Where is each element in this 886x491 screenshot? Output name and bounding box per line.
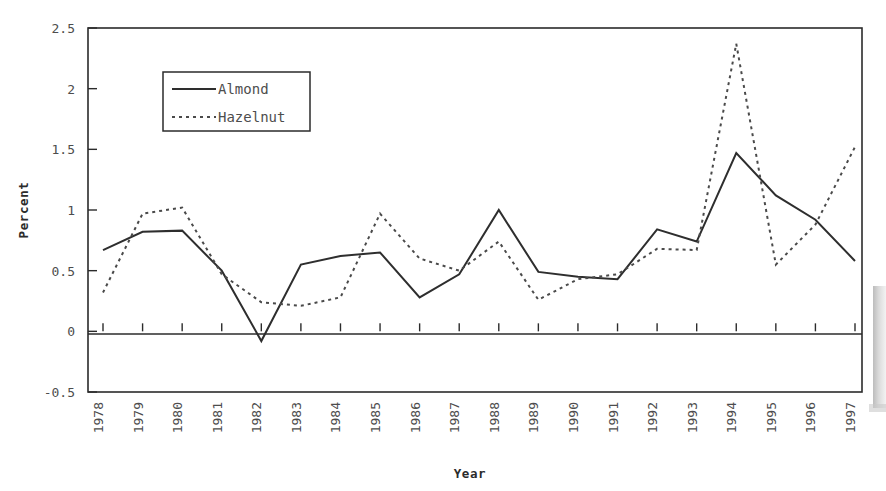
chart-figure: -0.500.511.522.5 19781979198019811982198… bbox=[0, 0, 886, 491]
x-tick-label: 1991 bbox=[606, 402, 621, 433]
legend-label-almond: Almond bbox=[218, 81, 269, 97]
x-tick-label: 1990 bbox=[566, 402, 581, 433]
x-tick-label: 1986 bbox=[408, 402, 423, 433]
x-axis-tick-labels: 1978197919801981198219831984198519861987… bbox=[91, 402, 858, 433]
y-tick-label: 1.5 bbox=[52, 142, 75, 157]
chart-legend: Almond Hazelnut bbox=[163, 72, 310, 131]
x-tick-label: 1978 bbox=[91, 402, 106, 433]
page-edge-shadow bbox=[873, 286, 886, 408]
y-tick-label: 2 bbox=[67, 82, 75, 97]
y-axis-tick-labels: -0.500.511.522.5 bbox=[44, 21, 75, 400]
y-tick-label: 1 bbox=[67, 203, 75, 218]
x-tick-label: 1996 bbox=[803, 402, 818, 433]
x-tick-label: 1984 bbox=[328, 402, 343, 433]
x-tick-label: 1994 bbox=[724, 402, 739, 433]
y-tick-label: 0.5 bbox=[52, 264, 75, 279]
y-axis-title: Percent bbox=[16, 182, 31, 239]
x-tick-label: 1989 bbox=[526, 402, 541, 433]
x-tick-label: 1988 bbox=[487, 402, 502, 433]
x-tick-label: 1980 bbox=[170, 402, 185, 433]
x-tick-label: 1979 bbox=[131, 402, 146, 433]
x-tick-label: 1987 bbox=[447, 402, 462, 433]
x-axis-ticks bbox=[103, 323, 855, 331]
y-axis-ticks bbox=[88, 28, 97, 392]
x-tick-label: 1992 bbox=[645, 402, 660, 433]
x-tick-label: 1985 bbox=[368, 402, 383, 433]
y-tick-label: -0.5 bbox=[44, 385, 75, 400]
y-tick-label: 2.5 bbox=[52, 21, 75, 36]
legend-label-hazelnut: Hazelnut bbox=[218, 109, 285, 125]
x-tick-label: 1982 bbox=[249, 402, 264, 433]
x-tick-label: 1983 bbox=[289, 402, 304, 433]
x-tick-label: 1993 bbox=[685, 402, 700, 433]
page-edge-shadow-corner bbox=[869, 404, 886, 412]
x-tick-label: 1981 bbox=[210, 402, 225, 433]
x-tick-label: 1995 bbox=[764, 402, 779, 433]
x-tick-label: 1997 bbox=[843, 402, 858, 433]
series-line-almond bbox=[103, 153, 855, 341]
y-tick-label: 0 bbox=[67, 324, 75, 339]
line-chart-canvas: -0.500.511.522.5 19781979198019811982198… bbox=[0, 0, 886, 491]
x-axis-title: Year bbox=[454, 466, 487, 481]
